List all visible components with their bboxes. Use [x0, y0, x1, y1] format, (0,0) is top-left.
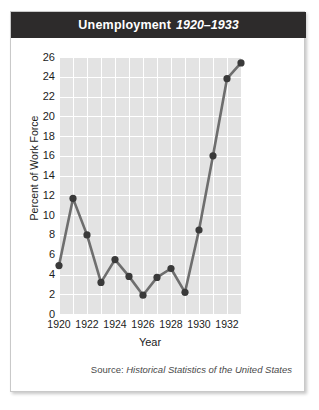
data-point-marker	[223, 75, 230, 82]
x-axis-ticks: 1920192219241926192819301932	[59, 318, 241, 334]
source-note: Source: Historical Statistics of the Uni…	[11, 364, 292, 375]
data-point-marker	[55, 262, 62, 269]
y-axis-label: Percent of Work Force	[28, 103, 40, 233]
data-point-marker	[139, 292, 146, 299]
data-point-marker	[125, 273, 132, 280]
y-tick-label: 26	[29, 52, 55, 63]
chart-card: Unemployment 1920–1933 02468101214161820…	[10, 11, 305, 392]
y-tick-label: 6	[29, 249, 55, 260]
plot-area	[59, 57, 241, 314]
data-point-marker	[209, 152, 216, 159]
page-title: Unemployment	[78, 18, 171, 32]
source-title: Historical Statistics of the United Stat…	[126, 364, 292, 375]
x-tick-label: 1932	[210, 318, 244, 330]
y-tick-label: 22	[29, 91, 55, 102]
data-point-marker	[97, 279, 104, 286]
y-tick-label: 2	[29, 289, 55, 300]
data-point-marker	[167, 265, 174, 272]
data-point-marker	[237, 59, 244, 66]
series-markers	[55, 59, 244, 298]
data-point-marker	[69, 195, 76, 202]
gridline-horizontal	[59, 314, 241, 315]
y-tick-label: 24	[29, 71, 55, 82]
x-axis-label: Year	[59, 336, 241, 348]
source-prefix: Source:	[91, 364, 124, 375]
series-polyline	[59, 63, 241, 295]
title-year-range: 1920–1933	[176, 18, 239, 32]
unemployment-line-series	[59, 57, 241, 314]
data-point-marker	[181, 289, 188, 296]
chart-title-bar: Unemployment 1920–1933	[11, 12, 306, 38]
data-point-marker	[195, 226, 202, 233]
data-point-marker	[83, 231, 90, 238]
y-tick-label: 4	[29, 269, 55, 280]
gridline-vertical	[241, 57, 242, 314]
data-point-marker	[111, 256, 118, 263]
data-point-marker	[153, 274, 160, 281]
